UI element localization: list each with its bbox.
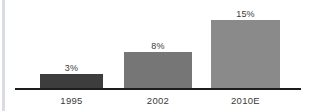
bar-group-2002: 8% [124,52,192,88]
bar-rect-2002 [124,52,192,88]
category-tick-label: 2010E [231,95,260,106]
plot-area: 3% 8% 15% 1995 2002 2010E [0,0,309,111]
category-tick-2010e: 2010E [211,90,280,110]
bar-value-label-1995: 3% [65,63,78,73]
category-tick-label: 1995 [60,95,82,106]
category-tick-1995: 1995 [40,90,103,110]
category-tick-2002: 2002 [124,90,192,110]
bar-value-label-2002: 8% [151,41,164,51]
bar-rect-2010e [211,20,280,88]
category-tick-label: 2002 [147,95,169,106]
bar-group-2010e: 15% [211,20,280,88]
bar-value-label-2010e: 15% [236,9,255,19]
bar-rect-1995 [40,74,103,88]
bar-group-1995: 3% [40,74,103,88]
bar-chart: 3% 8% 15% 1995 2002 2010E [0,0,309,111]
